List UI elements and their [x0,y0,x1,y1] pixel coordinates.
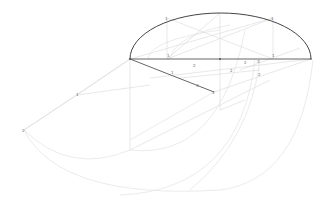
labels: 1 1 1 2 3 1 1 2 3 3 2 2 1 2 [22,16,275,133]
svg-text:2: 2 [230,68,233,73]
svg-text:2: 2 [244,60,247,65]
construction-lines [24,13,311,150]
semi-ellipse [130,13,311,59]
svg-text:3: 3 [212,90,215,95]
svg-text:1: 1 [167,53,170,58]
svg-text:2: 2 [193,63,196,68]
svg-text:1: 1 [271,16,274,21]
construction-arcs [24,25,313,195]
construction-diagram: 1 1 1 2 3 1 1 2 3 3 2 2 1 2 [0,0,333,203]
inclined-division-line [130,59,214,92]
main-lines [130,59,311,92]
svg-text:1: 1 [171,70,174,75]
